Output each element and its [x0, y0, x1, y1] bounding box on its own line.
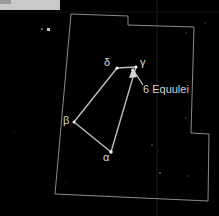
star-label-beta: β	[63, 115, 69, 126]
star-label-6-equulei: 6 Equulei	[143, 84, 189, 95]
field-star-4	[204, 22, 205, 23]
field-star-10	[13, 131, 14, 132]
star-alpha	[109, 150, 112, 153]
star-gamma	[134, 65, 137, 68]
star-label-gamma: γ	[140, 57, 146, 68]
field-star-5	[151, 144, 153, 146]
field-star-8	[159, 172, 161, 174]
field-star-13	[96, 100, 97, 101]
sky-map-svg	[0, 0, 219, 216]
field-star-1	[41, 28, 43, 30]
star-chart-canvas: δ γ β α 6 Equulei	[0, 0, 219, 216]
field-star-12	[65, 181, 66, 182]
scan-artifact-band-dark	[0, 0, 11, 4]
star-6-equulei	[131, 69, 133, 71]
field-star-3	[185, 32, 186, 33]
star-beta	[73, 121, 76, 124]
field-star-7	[187, 175, 188, 176]
star-label-alpha: α	[103, 152, 109, 163]
star-label-delta: δ	[104, 57, 110, 68]
star-delta	[115, 66, 118, 69]
field-star-11	[107, 195, 109, 197]
field-star-2	[47, 28, 50, 31]
field-star-6	[185, 117, 186, 118]
field-star-9	[197, 199, 198, 200]
